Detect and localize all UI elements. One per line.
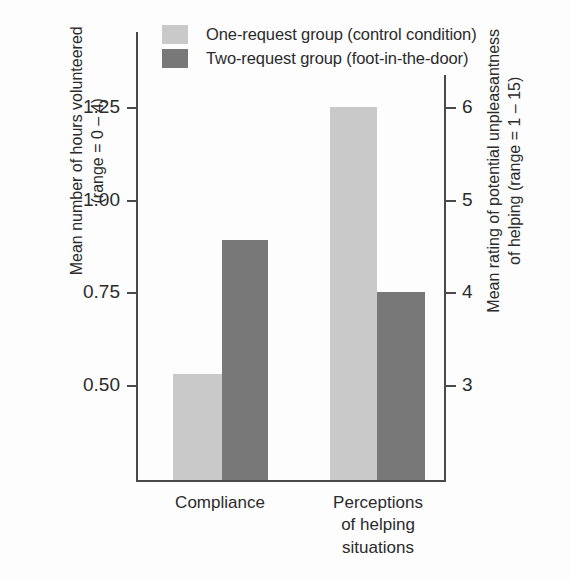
bar-compliance-one-request [173, 374, 222, 480]
right-tick-mark-1 [446, 107, 456, 109]
legend-label-two-request: Two-request group (foot-in-the-door) [206, 49, 468, 68]
category-label-perceptions: Perceptions of helping situations [305, 492, 451, 559]
right-tick-label-1: 6 [462, 97, 473, 116]
legend-item-one-request: One-request group (control condition) [162, 22, 477, 46]
right-tick-mark-4 [446, 385, 456, 387]
left-tick-mark-2 [127, 200, 137, 202]
right-axis-line [444, 75, 446, 482]
left-axis-title: Mean number of hours volunteered (range … [67, 1, 109, 301]
left-tick-mark-4 [127, 385, 137, 387]
legend-item-two-request: Two-request group (foot-in-the-door) [162, 46, 477, 70]
right-tick-mark-2 [446, 200, 456, 202]
bar-compliance-two-request [222, 240, 268, 480]
bar-chart-figure: One-request group (control condition) Tw… [0, 0, 570, 582]
chart-legend: One-request group (control condition) Tw… [162, 22, 477, 70]
left-axis-line [136, 32, 138, 482]
right-tick-label-2: 5 [462, 190, 473, 209]
legend-swatch-two-request [162, 49, 188, 68]
bar-perceptions-one-request [330, 107, 377, 480]
right-tick-mark-3 [446, 292, 456, 294]
bottom-axis-line [136, 480, 446, 482]
left-tick-mark-3 [127, 292, 137, 294]
bar-perceptions-two-request [377, 292, 425, 480]
right-axis-title: Mean rating of potential unpleasantness … [484, 21, 526, 321]
legend-swatch-one-request [162, 25, 188, 44]
left-tick-mark-1 [127, 107, 137, 109]
right-tick-label-4: 3 [462, 375, 473, 394]
left-tick-label-4: 0.50 [83, 375, 120, 394]
category-label-compliance: Compliance [150, 492, 290, 514]
right-tick-label-3: 4 [462, 282, 473, 301]
legend-label-one-request: One-request group (control condition) [206, 25, 477, 44]
